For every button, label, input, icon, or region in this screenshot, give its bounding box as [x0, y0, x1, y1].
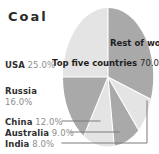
callout-australia: Australia 9.0% [5, 128, 74, 139]
callout-china-pct: 12.0% [35, 117, 63, 127]
slice-label-rest-of-world-line2: world [147, 38, 159, 48]
callout-india: India 8.0% [5, 139, 54, 150]
callout-russia-name: Russia [5, 86, 37, 97]
callout-usa-pct: 25.0% [28, 60, 56, 70]
callout-usa: USA 25.0% [5, 60, 55, 71]
group-label-top-five-line1: Top five [52, 58, 89, 68]
callout-china-name: China [5, 117, 33, 127]
callout-australia-pct: 9.0% [52, 128, 74, 138]
callout-india-name: India [5, 139, 29, 149]
group-label-top-five-countries: Top five countries 70.0% [52, 58, 106, 68]
callout-russia: Russia 16.0% [5, 86, 37, 108]
callout-russia-pct: 16.0% [5, 97, 37, 108]
callout-usa-name: USA [5, 60, 25, 70]
slice-label-rest-of-world-line1: Rest of [110, 38, 144, 48]
group-label-top-five-pct: 70.0% [140, 58, 159, 68]
group-label-top-five-line2: countries [92, 58, 137, 68]
callout-australia-name: Australia [5, 128, 49, 138]
slice-label-rest-of-world: Rest of world 30.0% [110, 38, 154, 48]
callout-india-pct: 8.0% [32, 139, 54, 149]
callout-china: China 12.0% [5, 117, 63, 128]
coal-pie-chart-figure: Coal Rest of world [0, 0, 159, 154]
